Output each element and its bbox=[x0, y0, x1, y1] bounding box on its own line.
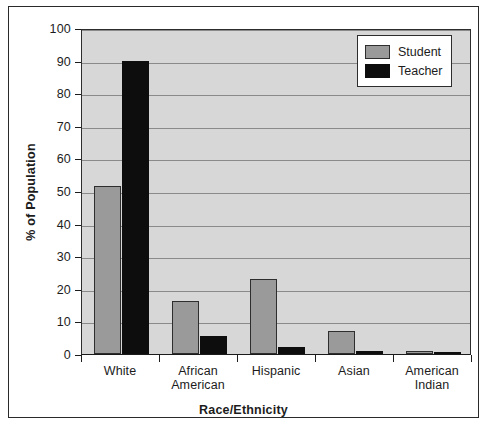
bar-hispanic-student bbox=[250, 279, 277, 354]
x-category-label-hispanic: Hispanic bbox=[237, 364, 315, 378]
legend-item-teacher: Teacher bbox=[365, 61, 442, 80]
bar-asian-teacher bbox=[356, 351, 383, 354]
bar-african-american-student bbox=[172, 301, 199, 354]
bar-white-student bbox=[94, 186, 121, 354]
y-tick-label-20: 20 bbox=[25, 283, 71, 297]
y-tick-label-70: 70 bbox=[25, 120, 71, 134]
bar-african-american-teacher bbox=[200, 336, 227, 354]
x-tick-mark-4 bbox=[393, 355, 394, 362]
chart-legend: Student Teacher bbox=[357, 35, 452, 87]
bar-asian-student bbox=[328, 331, 355, 354]
legend-swatch-student-icon bbox=[365, 45, 390, 59]
x-category-label-white: White bbox=[81, 364, 159, 378]
figure-frame: % of Population 0102030405060708090100 W… bbox=[8, 6, 479, 418]
y-tick-label-10: 10 bbox=[25, 315, 71, 329]
legend-item-student: Student bbox=[365, 42, 442, 61]
y-tick-label-100: 100 bbox=[25, 22, 71, 36]
y-tick-label-30: 30 bbox=[25, 250, 71, 264]
y-tick-label-0: 0 bbox=[25, 348, 71, 362]
y-tick-label-60: 60 bbox=[25, 152, 71, 166]
legend-swatch-teacher-icon bbox=[365, 64, 390, 78]
legend-label-teacher: Teacher bbox=[398, 64, 442, 78]
gridline-100 bbox=[82, 30, 470, 31]
legend-label-student: Student bbox=[398, 45, 441, 59]
y-tick-label-40: 40 bbox=[25, 218, 71, 232]
x-axis-label: Race/Ethnicity bbox=[9, 403, 478, 417]
y-tick-label-80: 80 bbox=[25, 87, 71, 101]
x-tick-mark-2 bbox=[237, 355, 238, 362]
y-tick-label-90: 90 bbox=[25, 55, 71, 69]
bar-american-indian-student bbox=[406, 351, 433, 354]
bar-hispanic-teacher bbox=[278, 347, 305, 354]
x-category-label-asian: Asian bbox=[315, 364, 393, 378]
x-tick-mark-1 bbox=[159, 355, 160, 362]
bar-american-indian-teacher bbox=[434, 352, 461, 355]
x-tick-mark-5 bbox=[471, 355, 472, 362]
y-tick-label-50: 50 bbox=[25, 185, 71, 199]
x-category-label-american-indian: AmericanIndian bbox=[393, 364, 471, 392]
bar-white-teacher bbox=[122, 61, 149, 354]
x-tick-mark-3 bbox=[315, 355, 316, 362]
x-tick-mark-0 bbox=[81, 355, 82, 362]
x-category-label-african-american: AfricanAmerican bbox=[159, 364, 237, 392]
chart-figure: % of Population 0102030405060708090100 W… bbox=[0, 0, 487, 425]
